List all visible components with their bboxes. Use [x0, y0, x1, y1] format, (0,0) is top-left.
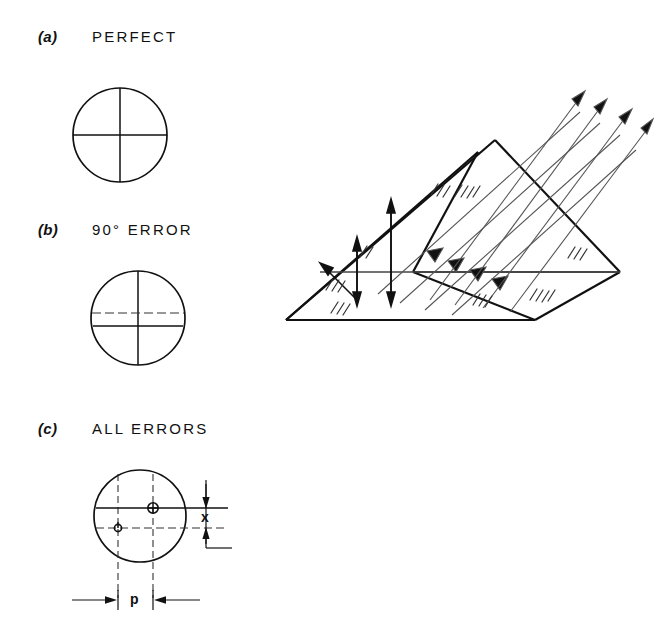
prism-outgoing-rays [430, 91, 653, 312]
prism-hatch-marks [326, 184, 587, 315]
hatch-group [568, 247, 587, 260]
panel-b-graphic [91, 271, 185, 365]
hatch-group [530, 289, 555, 302]
figure-canvas [0, 0, 654, 640]
dimension-p-label: p [130, 591, 139, 607]
panel-a-title: PERFECT [92, 28, 177, 45]
panel-c-target-marker-icon [148, 503, 158, 513]
prism-outline [286, 140, 620, 320]
panel-b-index: (b) [38, 221, 58, 238]
panel-a-index: (a) [38, 28, 57, 45]
prism-internal-reflection-rays [320, 199, 395, 306]
panel-a-graphic [73, 88, 167, 182]
panel-c-title: ALL ERRORS [92, 420, 208, 437]
panel-b-title: 90° ERROR [92, 221, 193, 238]
hatch-group [326, 279, 345, 292]
hatch-group [331, 302, 350, 315]
panel-c-beam-circle [94, 470, 186, 562]
dimension-x-label: x [201, 509, 209, 525]
figure-root: (a) PERFECT (b) 90° ERROR (c) ALL ERRORS… [0, 0, 654, 640]
panel-c-index: (c) [38, 420, 57, 437]
prism-graphic [286, 91, 653, 320]
panel-c-graphic [72, 470, 232, 610]
